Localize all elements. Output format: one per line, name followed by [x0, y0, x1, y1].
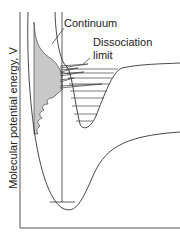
excited-state-curve [55, 12, 180, 128]
y-axis-label: Molecular potential energy, V [7, 43, 19, 193]
spectrum-spikes [60, 64, 102, 88]
diagram-canvas [0, 0, 180, 233]
dissociation-label-line2: limit [93, 49, 113, 61]
continuum-label: Continuum [64, 17, 117, 29]
dissociation-label-line1: Dissociation [93, 36, 152, 48]
excited-vibrational-levels [66, 69, 118, 121]
absorption-spectrum [34, 22, 62, 134]
